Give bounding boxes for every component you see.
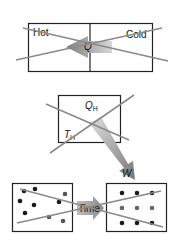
panel-heat-engine: QH TH W (46, 95, 135, 180)
work-w-label: W (122, 168, 133, 179)
diagram-canvas: Hot Cold Q QH TH W (0, 0, 178, 245)
panel-heat-flow: Hot Cold Q (16, 24, 168, 72)
panel-entropy-time: Time (13, 184, 167, 232)
disordered-box (13, 184, 73, 232)
